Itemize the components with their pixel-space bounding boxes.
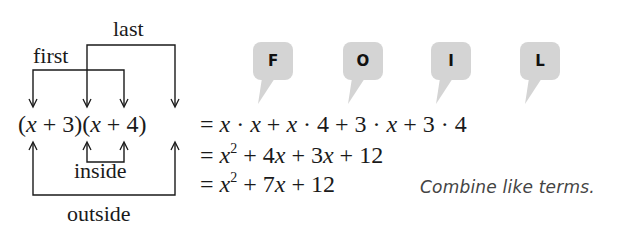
- foil-bubble-f: F: [253, 42, 293, 80]
- first-bracket: [29, 70, 128, 107]
- first-label: first: [33, 45, 68, 67]
- expression-line-2: = x2 + 4x + 3x + 12: [200, 143, 383, 167]
- bubble-letter: L: [520, 52, 560, 70]
- foil-bubble-o: O: [343, 42, 383, 80]
- combine-note: Combine like terms.: [420, 177, 595, 197]
- bubble-tails: [258, 78, 542, 104]
- inside-label: inside: [74, 160, 127, 182]
- bubble-letter: I: [431, 52, 471, 70]
- last-bracket: [83, 45, 179, 107]
- foil-bubble-i: I: [431, 42, 471, 80]
- expression-line-1: = x · x + x · 4 + 3 · x + 3 · 4: [200, 112, 467, 136]
- expression-line-3: = x2 + 7x + 12: [200, 172, 335, 196]
- outside-label: outside: [67, 203, 131, 225]
- bubble-letter: F: [253, 52, 293, 70]
- foil-diagram: last first inside outside F O I L (x + 3…: [0, 0, 620, 235]
- bubble-letter: O: [343, 52, 383, 70]
- foil-bubble-l: L: [520, 42, 560, 80]
- expression-left-side: (x + 3)(x + 4): [18, 112, 146, 136]
- last-label: last: [113, 18, 144, 40]
